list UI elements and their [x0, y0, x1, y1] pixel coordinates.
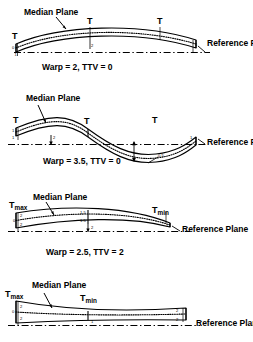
reference-plane-label: Reference Plane [196, 319, 253, 328]
tmin-subscript: min [158, 209, 169, 216]
median-plane-label: Median Plane [33, 193, 87, 202]
thickness-max-label: Tmax [9, 201, 27, 210]
panel-3-caption: Warp = 2.5, TTV = 2 [46, 248, 124, 257]
thickness-max-label: Tmax [5, 290, 23, 299]
tmin-base: T [152, 205, 158, 215]
dimension-value: 1 [91, 320, 93, 324]
tmax-subscript: max [11, 293, 24, 300]
dimension-value: 2 [20, 223, 22, 227]
tmin-subscript: min [86, 297, 97, 304]
dimension-value: 1 [190, 136, 192, 140]
dimension-value: 1.5 [80, 211, 86, 215]
dimension-value: 2 [176, 318, 178, 322]
thickness-min-label: Tmin [152, 206, 169, 215]
reference-plane-leader [198, 46, 205, 52]
thickness-label-center: T [87, 17, 93, 26]
wafer-outline [16, 208, 170, 228]
panel-4: Median Plane Tmax Tmin Reference Plane 2… [0, 275, 253, 342]
dimension-value: 0 [12, 310, 14, 314]
panel-2-caption: Warp = 3.5, TTV = 0 [43, 157, 121, 166]
dimension-value: 2 [176, 309, 178, 313]
thickness-label-right: T [157, 17, 163, 26]
thickness-label-left: T [13, 116, 19, 125]
reference-plane-leader [172, 226, 180, 231]
thickness-label-left: T [12, 32, 18, 41]
reference-plane-leader [198, 139, 205, 144]
dimension-value: 1 [166, 224, 168, 228]
dimension-value: 1 [15, 53, 17, 57]
dimension-value: 1 [195, 43, 197, 47]
dimension-value: 2 [20, 317, 22, 321]
panel-2: Median Plane T T T Reference Plane 1 1 2… [0, 85, 253, 180]
tmax-base: T [5, 289, 11, 299]
thickness-label-center: T [84, 117, 90, 126]
dimension-value: 1 [12, 136, 14, 140]
wafer-outline [16, 301, 186, 323]
panel-1: Median Plane T T T Reference Plane 0 1 2… [0, 0, 253, 85]
dimension-value: 2 [20, 305, 22, 309]
dimension-value-half: 0.5 [158, 154, 164, 158]
panel-1-caption: Warp = 2, TTV = 0 [42, 63, 113, 72]
dimension-value: 2 [91, 226, 93, 230]
thickness-min-label: Tmin [80, 294, 97, 303]
reference-plane-label: Reference Plane [207, 39, 253, 48]
wafer-outline [16, 28, 196, 52]
reference-plane-label: Reference Plane [207, 138, 253, 147]
dimension-value: 2 [91, 44, 93, 48]
dimension-value: 1.5 [80, 219, 86, 223]
dimension-value: 2 [53, 136, 55, 140]
median-plane-label: Median Plane [24, 8, 78, 17]
median-plane-label: Median Plane [26, 94, 80, 103]
dimension-value: 2 [20, 214, 22, 218]
thickness-label-right: T [152, 116, 158, 125]
dimension-value: 0 [13, 219, 15, 223]
reference-plane-label: Reference Plane [182, 225, 248, 234]
tmax-subscript: max [15, 204, 28, 211]
right-dim-arrowhead-top [132, 141, 136, 145]
panel-3: Median Plane Tmax Tmin Reference Plane 2… [0, 180, 253, 275]
dimension-value: 0 [12, 46, 14, 50]
tmax-base: T [9, 200, 15, 210]
dimension-value: 1 [12, 129, 14, 133]
tmin-base: T [80, 293, 86, 303]
figure-canvas: Median Plane T T T Reference Plane 0 1 2… [0, 0, 253, 342]
median-plane-label: Median Plane [32, 281, 86, 290]
